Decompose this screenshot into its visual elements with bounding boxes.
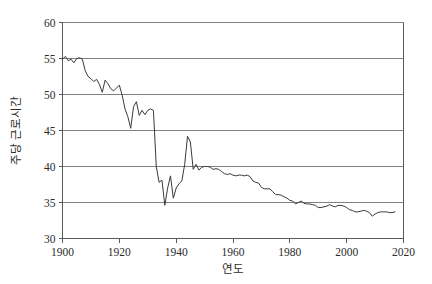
x-tick-label-1980: 1980 (278, 246, 301, 258)
series-line-0 (63, 56, 395, 216)
y-axis-title: 주당 근로시간 (10, 96, 22, 165)
x-tick-label-1960: 1960 (222, 246, 245, 258)
chart-figure: 3035404550556019001920194019601980200020… (0, 0, 432, 284)
y-tick-label-30: 30 (44, 233, 56, 245)
line-chart: 3035404550556019001920194019601980200020… (0, 0, 432, 284)
x-axis-title: 연도 (222, 263, 244, 275)
x-tick-label-1940: 1940 (165, 246, 188, 258)
x-tick-label-2000: 2000 (335, 246, 358, 258)
y-tick-label-40: 40 (44, 161, 56, 173)
y-tick-label-50: 50 (44, 89, 56, 101)
y-tick-label-35: 35 (44, 197, 56, 209)
x-tick-label-1920: 1920 (108, 246, 131, 258)
x-tick-label-2020: 2020 (392, 246, 415, 258)
y-tick-label-55: 55 (44, 53, 56, 65)
x-tick-label-1900: 1900 (51, 246, 74, 258)
y-tick-label-60: 60 (44, 17, 56, 29)
y-tick-label-45: 45 (44, 125, 56, 137)
